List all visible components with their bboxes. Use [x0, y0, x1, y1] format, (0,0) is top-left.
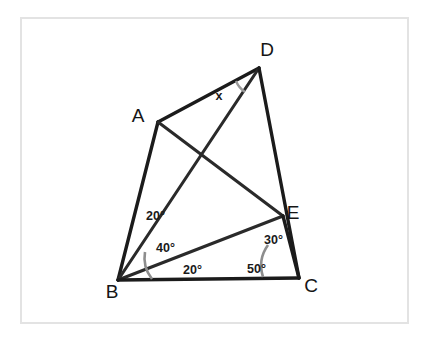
angle-label-bce: 50° [247, 262, 266, 276]
geometry-canvas: A B C D E 20° 40° 20° 30° 50° x [0, 0, 429, 343]
angle-label-ebc: 20° [183, 263, 202, 277]
angle-label-x: x [216, 89, 223, 103]
vertex-label-B: B [106, 281, 119, 302]
angle-label-dbe: 40° [156, 241, 175, 255]
vertex-label-E: E [287, 202, 300, 223]
vertex-label-D: D [260, 39, 274, 60]
vertex-label-A: A [132, 105, 145, 126]
geometry-figure: A B C D E 20° 40° 20° 30° 50° x [0, 0, 429, 343]
vertex-label-C: C [304, 275, 318, 296]
angle-label-ecd: 30° [264, 233, 283, 247]
angle-label-abd: 20° [146, 209, 165, 223]
segment-BC [118, 278, 299, 280]
